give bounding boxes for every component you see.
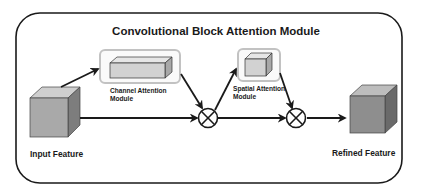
input-feature-cube <box>30 87 80 137</box>
multiply-icon <box>287 109 306 128</box>
channel-attention-label: Channel Attention Module <box>110 87 167 103</box>
spatial-attention-module <box>238 49 280 81</box>
channel-attention-label-line1: Channel Attention <box>110 87 167 95</box>
spatial-attention-label: Spatial Attention Module <box>233 85 285 101</box>
arrow-channel-to-multiply1 <box>181 74 202 108</box>
refined-feature-cube <box>350 85 397 133</box>
spatial-attention-label-line2: Module <box>233 93 285 101</box>
spatial-attention-label-line1: Spatial Attention <box>233 85 285 93</box>
channel-attention-label-line2: Module <box>110 95 167 103</box>
arrow-input-to-channel <box>61 69 98 87</box>
multiply-icon <box>199 109 218 128</box>
refined-feature-label: Refined Feature <box>332 148 395 158</box>
diagram-title: Convolutional Block Attention Module <box>0 25 432 37</box>
channel-attention-module <box>100 50 180 83</box>
input-feature-label: Input Feature <box>30 149 83 159</box>
